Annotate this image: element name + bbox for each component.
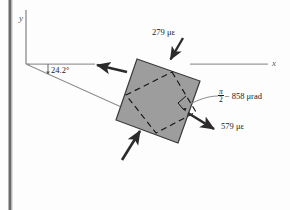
- shear-strain-label: π 2 − 858 μrad: [218, 88, 262, 105]
- arrow-left-strain: [97, 65, 127, 72]
- y-axis-label: y: [19, 14, 23, 23]
- fraction-denominator: 2: [218, 95, 224, 104]
- arrow-579-strain: [188, 113, 214, 129]
- page-edge-shadow: [11, 0, 12, 210]
- x-axis-label: x: [272, 59, 276, 68]
- strain-label-right: 579 με: [221, 122, 244, 131]
- figure-canvas: [0, 0, 290, 210]
- arrow-bottom-strain: [122, 131, 140, 160]
- strain-figure: y x 24.2° 279 με 579 με π 2 − 858 μrad: [0, 0, 290, 210]
- fraction-numerator: π: [218, 88, 224, 96]
- arrow-279-strain: [171, 38, 184, 60]
- pi-over-two-fraction: π 2: [218, 88, 224, 105]
- shear-strain-value: − 858 μrad: [225, 92, 262, 101]
- angle-label: 24.2°: [51, 66, 69, 75]
- strain-label-top: 279 με: [152, 28, 175, 37]
- element-square: [116, 59, 200, 143]
